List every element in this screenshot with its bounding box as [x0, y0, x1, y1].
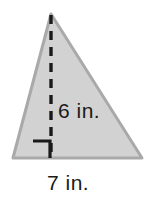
base-measurement-label: 7 in. — [47, 172, 89, 193]
geometry-figure: 6 in. 7 in. — [0, 0, 154, 207]
triangle-shape — [13, 14, 142, 158]
height-measurement-label: 6 in. — [58, 100, 100, 121]
